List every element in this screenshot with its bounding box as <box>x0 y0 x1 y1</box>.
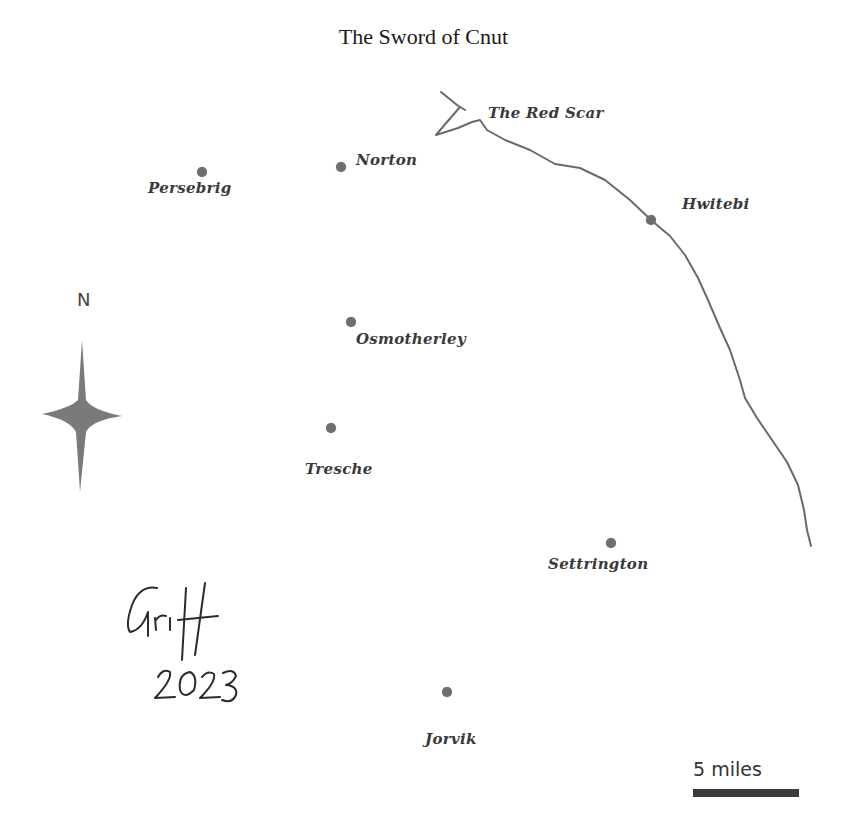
place-label: Persebrig <box>148 179 232 197</box>
scale-bar <box>693 789 799 797</box>
place-marker-icon[interactable] <box>336 162 346 172</box>
place-label: Norton <box>356 151 417 169</box>
place-label: Settrington <box>548 555 648 573</box>
place-marker-icon[interactable] <box>646 215 656 225</box>
map-canvas <box>0 0 847 822</box>
place-label: Tresche <box>305 460 373 478</box>
place-label: Hwitebi <box>682 195 750 213</box>
signature-year <box>155 671 236 701</box>
place-marker-icon[interactable] <box>326 423 336 433</box>
scale-label: 5 miles <box>693 758 762 780</box>
river-label: The Red Scar <box>488 104 604 122</box>
place-marker-icon[interactable] <box>197 167 207 177</box>
compass-north-label: N <box>77 289 90 310</box>
compass-star-icon <box>42 340 122 492</box>
place-marker-icon[interactable] <box>442 687 452 697</box>
place-label: Osmotherley <box>356 330 466 348</box>
place-marker-icon[interactable] <box>346 317 356 327</box>
signature-griff <box>128 583 218 660</box>
river-the-red-scar <box>436 92 811 546</box>
place-marker-icon[interactable] <box>606 538 616 548</box>
place-label: Jorvik <box>425 730 477 748</box>
